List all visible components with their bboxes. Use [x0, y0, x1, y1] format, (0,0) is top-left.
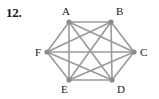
graph-vertex-label-d: D — [117, 83, 125, 95]
graph-edge-bd — [111, 22, 112, 80]
graph-vertex-c — [131, 49, 136, 54]
graph-vertex-f — [44, 49, 49, 54]
graph-vertex-a — [66, 19, 71, 24]
graph-vertex-label-e: E — [61, 83, 68, 95]
graph-vertex-label-c: C — [140, 46, 147, 58]
graph-vertex-label-a: A — [62, 5, 70, 17]
complete-graph-k6-svg: ABCDEF — [0, 0, 159, 99]
graph-edges — [47, 22, 134, 80]
graph-figure: ABCDEF — [0, 0, 159, 99]
graph-vertex-label-b: B — [116, 5, 123, 17]
graph-vertex-b — [108, 19, 113, 24]
page-root: 12. ABCDEF — [0, 0, 159, 99]
graph-vertex-label-f: F — [35, 46, 41, 58]
graph-vertex-e — [66, 77, 71, 82]
graph-vertex-d — [109, 77, 114, 82]
